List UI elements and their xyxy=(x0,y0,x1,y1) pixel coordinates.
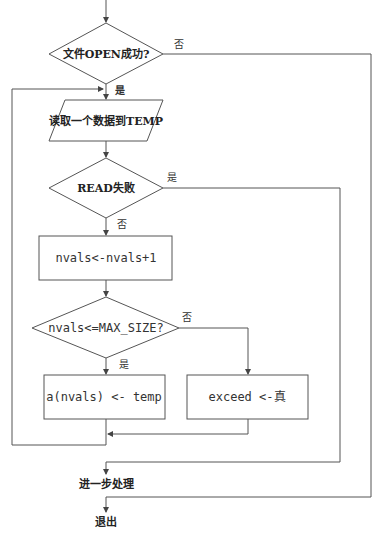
size-check-label: nvals<=MAX_SIZE? xyxy=(48,322,164,334)
exceed-merge-path xyxy=(108,419,248,434)
size-yes-label: 是 xyxy=(119,360,129,370)
open-check-label: 文件OPEN成功? xyxy=(63,49,150,60)
read-fail-label: READ失败 xyxy=(77,183,135,194)
read-input-label: 读取一个数据到TEMP xyxy=(49,116,163,127)
further-processing-label: 进一步处理 xyxy=(79,479,134,490)
open-no-label: 否 xyxy=(174,40,184,50)
increment-label: nvals<-nvals+1 xyxy=(55,252,156,264)
flowchart-canvas xyxy=(0,0,378,537)
open-yes-label: 是 xyxy=(115,86,125,96)
size-no-path xyxy=(179,328,248,374)
exceed-label: exceed <-真 xyxy=(208,391,285,403)
size-no-label: 否 xyxy=(182,313,192,323)
read-fail-yes-label: 是 xyxy=(167,173,177,183)
store-label: a(nvals) <- temp xyxy=(46,391,162,403)
exit-label: 退出 xyxy=(95,517,117,528)
read-fail-no-label: 否 xyxy=(117,220,127,230)
